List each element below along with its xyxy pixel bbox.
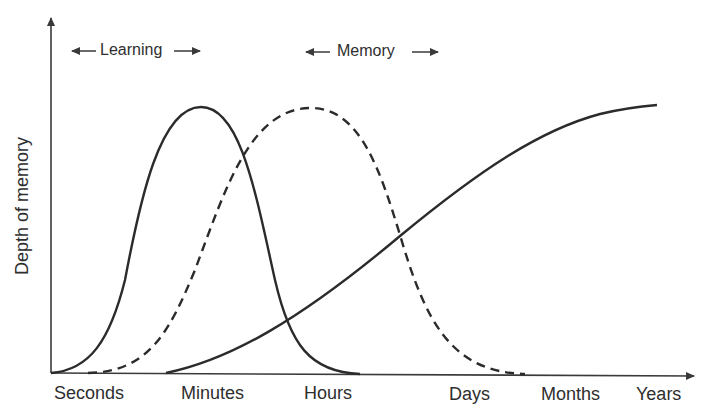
tick-seconds: Seconds: [54, 383, 124, 404]
x-axis: [51, 373, 694, 376]
memory-curve: [88, 108, 525, 374]
tick-hours: Hours: [304, 383, 352, 404]
tick-months: Months: [541, 384, 600, 405]
tick-minutes: Minutes: [181, 383, 244, 404]
tick-years: Years: [636, 384, 681, 405]
learning-curve: [51, 107, 360, 374]
memory-label: Memory: [337, 42, 395, 60]
learning-label: Learning: [100, 41, 162, 59]
diagram-canvas: [0, 0, 710, 417]
tick-days: Days: [449, 384, 490, 405]
y-axis-label: Depth of memory: [12, 137, 33, 275]
